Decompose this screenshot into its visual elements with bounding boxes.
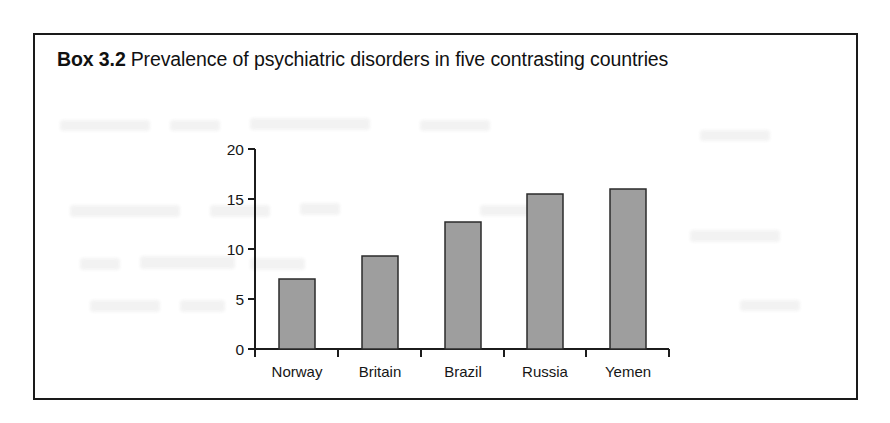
bar-chart-svg: 20 15 10 5 0 [35, 35, 860, 402]
bar-series [279, 189, 646, 349]
bar-chart: 20 15 10 5 0 [35, 35, 860, 402]
x-label-russia: Russia [522, 363, 569, 380]
y-tick-label-0: 0 [235, 341, 244, 358]
x-axis-category-labels: Norway Britain Brazil Russia Yemen [272, 363, 652, 380]
bar-yemen [610, 189, 646, 349]
x-label-norway: Norway [272, 363, 323, 380]
x-label-yemen: Yemen [605, 363, 651, 380]
x-label-brazil: Brazil [444, 363, 482, 380]
figure-box: Box 3.2Prevalence of psychiatric disorde… [33, 33, 858, 400]
bar-britain [362, 256, 398, 349]
y-tick-label-15: 15 [227, 191, 244, 208]
y-tick-label-5: 5 [235, 291, 244, 308]
x-label-britain: Britain [359, 363, 402, 380]
y-axis-tick-marks [248, 149, 255, 349]
bar-brazil [445, 222, 481, 349]
bar-norway [279, 279, 315, 349]
y-tick-label-20: 20 [227, 141, 245, 158]
x-axis-tick-marks [255, 349, 669, 357]
bar-russia [527, 194, 563, 349]
y-tick-label-10: 10 [227, 241, 245, 258]
y-axis-tick-labels: 20 15 10 5 0 [227, 141, 245, 358]
